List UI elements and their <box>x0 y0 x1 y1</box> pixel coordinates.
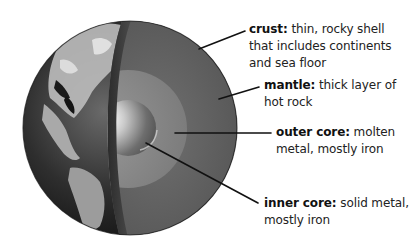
inner-core-label: inner core: solid metal, mostly iron <box>264 195 409 229</box>
mantle-term: mantle: <box>264 78 315 92</box>
mantle-desc-line-1: thick layer of <box>319 78 396 92</box>
crust-desc-line-3: and sea floor <box>249 55 391 72</box>
mantle-desc-line-2: hot rock <box>264 94 396 111</box>
crust-label: crust: thin, rocky shell that includes c… <box>249 21 391 72</box>
inner-core-desc-line-1: solid metal, <box>340 196 409 210</box>
crust-desc-line-1: thin, rocky shell <box>291 22 384 36</box>
outer-core-term: outer core: <box>276 125 350 139</box>
outer-core-label: outer core: molten metal, mostly iron <box>276 124 395 158</box>
outer-core-desc-line-2: metal, mostly iron <box>276 141 395 158</box>
earth-layers-diagram: crust: thin, rocky shell that includes c… <box>0 0 417 249</box>
outer-core-desc-line-1: molten <box>354 125 395 139</box>
inner-core-desc-line-2: mostly iron <box>264 212 409 229</box>
crust-term: crust: <box>249 22 288 36</box>
inner-core-term: inner core: <box>264 196 337 210</box>
crust-leader-line <box>199 31 245 49</box>
crust-desc-line-2: that includes continents <box>249 38 391 55</box>
mantle-label: mantle: thick layer of hot rock <box>264 77 396 111</box>
